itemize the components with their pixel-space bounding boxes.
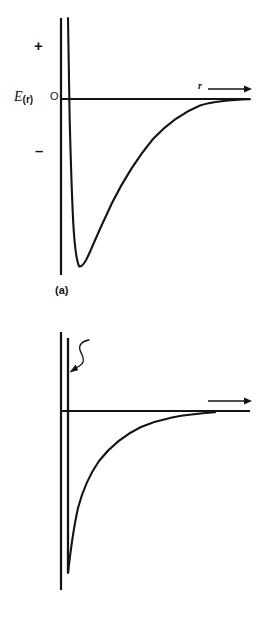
potential-energy-figure: E(r) O + – r (a) E(r) O: [0, 0, 261, 624]
annotation-arrowhead: [70, 365, 79, 373]
panel-a: E(r) O + – r (a): [0, 0, 261, 312]
x-axis-arrow-a: [208, 86, 252, 93]
panel-b: E(r) O + – r infinite repulsion (b): [0, 312, 261, 624]
panel-b-plot: [0, 312, 261, 624]
x-axis-arrow-b: [208, 398, 252, 405]
negative-sign-a: –: [35, 143, 43, 158]
panel-caption-a: (a): [55, 285, 68, 296]
positive-sign-a: +: [34, 38, 43, 53]
potential-curve-a: [68, 18, 250, 267]
potential-curve-b: [68, 412, 215, 573]
y-axis-label-a: E(r): [14, 90, 33, 105]
x-axis-label-a: r: [198, 81, 202, 91]
origin-label-a: O: [50, 91, 59, 102]
